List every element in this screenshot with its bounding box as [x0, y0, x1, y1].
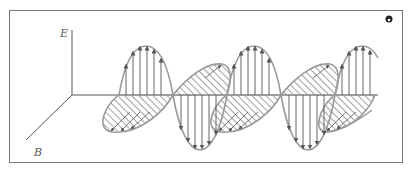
e-axis-label: E: [60, 27, 68, 40]
audio-icon[interactable]: [385, 15, 393, 23]
b-axis: [26, 95, 72, 140]
em-wave-diagram: E B: [0, 0, 408, 170]
b-lobe: [173, 64, 230, 95]
b-axis-label: B: [34, 146, 42, 159]
diagram-canvas: [0, 0, 408, 170]
b-lobe: [281, 64, 338, 95]
